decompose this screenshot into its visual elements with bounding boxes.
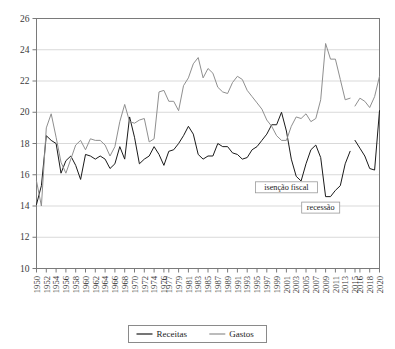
- line-chart: 101214161820222426 195019521954195619581…: [0, 0, 395, 349]
- y-axis-tick-label: 24: [20, 45, 30, 55]
- x-axis-tick-label: 1997: [262, 275, 272, 293]
- x-axis-tick-label: 2003: [291, 276, 301, 293]
- x-axis-tick-label: 1950: [32, 276, 42, 293]
- y-axis-tick-label: 16: [20, 170, 30, 180]
- y-axis-tick-label: 22: [20, 76, 30, 86]
- x-axis-tick-label: 1987: [213, 275, 223, 293]
- legend-label-gastos: Gastos: [229, 329, 254, 339]
- x-axis-tick-label: 1979: [174, 276, 184, 293]
- x-axis-tick-label: 2005: [301, 276, 311, 293]
- x-axis-labels-group: 1950195219541956195819601962196419661968…: [32, 275, 385, 293]
- x-axis-tick-label: 1983: [193, 276, 203, 293]
- x-axis-tick-label: 1991: [233, 276, 243, 293]
- x-axis-tick-label: 1966: [110, 275, 120, 293]
- y-axis-tick-label: 10: [20, 264, 30, 274]
- y-axis-tick-label: 26: [20, 14, 30, 24]
- chart-legend: ReceitasGastos: [129, 326, 267, 343]
- x-axis-tick-label: 1995: [252, 276, 262, 293]
- legend-label-receitas: Receitas: [157, 329, 188, 339]
- x-axis-tick-label: 2020: [375, 276, 385, 293]
- y-axis-tick-label: 20: [20, 107, 30, 117]
- annotation-label: isenção fiscal: [264, 183, 309, 192]
- x-axis-tick-label: 1970: [130, 276, 140, 293]
- x-axis-tick-label: 2001: [282, 276, 292, 293]
- x-axis-tick-label: 1968: [120, 276, 130, 293]
- x-axis-tick-label: 2009: [321, 276, 331, 293]
- x-axis-tick-label: 1952: [42, 276, 52, 293]
- x-axis-tick-label: 1956: [61, 275, 71, 293]
- x-axis-tick-label: 1962: [91, 276, 101, 293]
- x-axis-tick-label: 2007: [311, 275, 321, 293]
- x-axis-tick-label: 1993: [242, 276, 252, 293]
- x-axis-tick-label: 1981: [184, 276, 194, 293]
- x-axis-tick-label: 1972: [140, 276, 150, 293]
- x-axis-tick-label: 1964: [100, 275, 110, 293]
- chart-container: 101214161820222426 195019521954195619581…: [0, 0, 395, 349]
- x-axis-tick-label: 2018: [365, 276, 375, 293]
- x-axis-tick-label: 2016: [355, 275, 365, 293]
- x-axis-tick-label: 1954: [51, 275, 61, 293]
- x-axis-tick-label: 1977: [164, 275, 174, 293]
- y-axis-labels-group: 101214161820222426: [20, 14, 30, 274]
- x-axis-tick-label: 1989: [223, 276, 233, 293]
- x-axis-tick-label: 1974: [149, 275, 159, 293]
- x-axis-tick-label: 2011: [331, 276, 341, 293]
- x-axis-tick-label: 1960: [81, 276, 91, 293]
- y-axis-tick-label: 18: [20, 139, 30, 149]
- x-axis-tick-label: 2013: [340, 276, 350, 293]
- x-axis-tick-label: 1999: [272, 276, 282, 293]
- annotation-label: recessão: [307, 203, 335, 212]
- x-axis-tick-label: 1985: [203, 276, 213, 293]
- y-axis-tick-label: 14: [20, 201, 30, 211]
- x-axis-tick-label: 1958: [71, 276, 81, 293]
- y-axis-tick-label: 12: [20, 232, 30, 242]
